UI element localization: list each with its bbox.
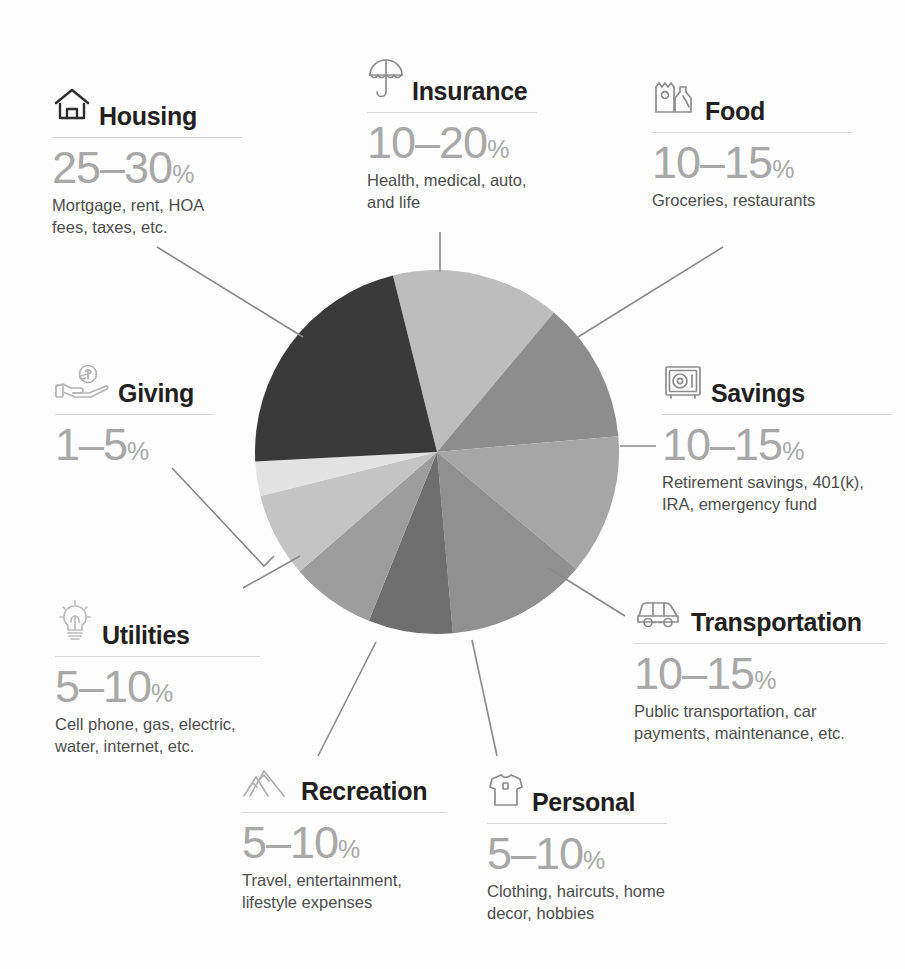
lightbulb-icon	[55, 600, 95, 648]
car-icon	[634, 597, 684, 635]
connector-transportation	[548, 568, 625, 616]
divider	[367, 112, 537, 113]
category-transportation-title: Transportation	[691, 610, 862, 635]
grocery-bag-icon	[652, 78, 698, 124]
divider	[242, 812, 447, 813]
category-food-header: Food	[652, 78, 852, 124]
category-personal-header: Personal	[487, 771, 667, 815]
divider	[55, 656, 260, 657]
house-icon	[52, 85, 92, 129]
category-food-percent: 10–15%	[652, 140, 852, 186]
category-personal-percent: 5–10%	[487, 831, 667, 877]
category-insurance-description: Health, medical, auto, and life	[367, 170, 537, 214]
category-personal: Personal 5–10% Clothing, haircuts, home …	[487, 771, 667, 925]
category-savings: Savings 10–15% Retirement savings, 401(k…	[662, 362, 892, 516]
category-recreation-percent: 5–10%	[242, 820, 447, 866]
category-insurance-header: Insurance	[367, 56, 537, 104]
category-insurance: Insurance 10–20% Health, medical, auto, …	[367, 56, 537, 214]
connector-housing	[157, 247, 303, 337]
mountains-icon	[242, 768, 294, 804]
category-savings-description: Retirement savings, 401(k), IRA, emergen…	[662, 472, 892, 516]
category-transportation-description: Public transportation, car payments, mai…	[634, 701, 886, 745]
category-giving-percent: 1–5%	[55, 422, 215, 468]
category-insurance-title: Insurance	[412, 79, 527, 104]
category-recreation: Recreation 5–10% Travel, entertainment, …	[242, 768, 447, 914]
infographic-canvas: Housing 25–30% Mortgage, rent, HOA fees,…	[0, 0, 905, 969]
category-housing-percent: 25–30%	[52, 145, 242, 191]
category-utilities-description: Cell phone, gas, electric, water, intern…	[55, 714, 260, 758]
umbrella-icon	[367, 56, 405, 104]
category-housing-description: Mortgage, rent, HOA fees, taxes, etc.	[52, 195, 242, 239]
category-transportation-header: Transportation	[634, 597, 886, 635]
hand-coin-icon	[55, 364, 111, 406]
category-personal-description: Clothing, haircuts, home decor, hobbies	[487, 881, 667, 925]
category-food-title: Food	[705, 99, 765, 124]
divider	[634, 643, 886, 644]
category-utilities-header: Utilities	[55, 600, 260, 648]
category-personal-title: Personal	[532, 790, 635, 815]
category-housing: Housing 25–30% Mortgage, rent, HOA fees,…	[52, 85, 242, 239]
category-utilities: Utilities 5–10% Cell phone, gas, electri…	[55, 600, 260, 758]
connector-personal	[472, 640, 497, 756]
category-recreation-header: Recreation	[242, 768, 447, 804]
divider	[662, 414, 892, 415]
category-giving-header: Giving	[55, 364, 215, 406]
connector-utilities	[243, 556, 300, 588]
connector-food	[578, 247, 723, 337]
category-housing-title: Housing	[99, 104, 197, 129]
category-transportation-percent: 10–15%	[634, 651, 886, 697]
divider	[652, 132, 852, 133]
category-utilities-title: Utilities	[102, 623, 190, 648]
tshirt-icon	[487, 771, 525, 815]
category-savings-header: Savings	[662, 362, 892, 406]
category-recreation-title: Recreation	[301, 779, 427, 804]
divider	[55, 414, 215, 415]
safe-icon	[662, 362, 704, 406]
connector-recreation	[318, 642, 376, 756]
category-insurance-percent: 10–20%	[367, 120, 537, 166]
category-giving-title: Giving	[118, 381, 194, 406]
pie-slice-group	[255, 270, 619, 634]
category-savings-percent: 10–15%	[662, 422, 892, 468]
category-recreation-description: Travel, entertainment, lifestyle expense…	[242, 870, 447, 914]
category-housing-header: Housing	[52, 85, 242, 129]
category-utilities-percent: 5–10%	[55, 664, 260, 710]
divider	[487, 823, 667, 824]
category-giving: Giving 1–5%	[55, 364, 215, 472]
divider	[52, 137, 242, 138]
category-food-description: Groceries, restaurants	[652, 190, 852, 212]
category-savings-title: Savings	[711, 381, 805, 406]
category-food: Food 10–15% Groceries, restaurants	[652, 78, 852, 212]
category-transportation: Transportation 10–15% Public transportat…	[634, 597, 886, 745]
